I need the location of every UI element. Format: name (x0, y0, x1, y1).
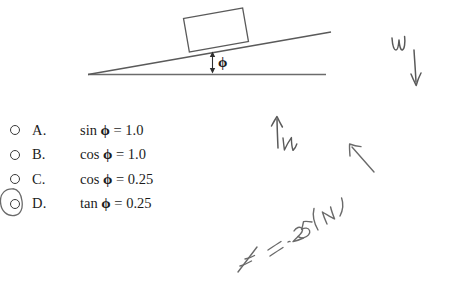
option-text-b: cos ϕ = 1.0 (80, 146, 146, 163)
answer-options-list: A. sin ϕ = 1.0 B. cos ϕ = 1.0 C. cos ϕ =… (8, 118, 238, 216)
handwritten-normal-arrow (272, 117, 283, 149)
option-text-b-suffix: = 1.0 (112, 146, 146, 162)
option-letter-c: C. (32, 171, 66, 188)
option-text-c-prefix: cos (80, 171, 103, 187)
option-text-d-suffix: = 0.25 (111, 195, 152, 211)
option-bubble-c[interactable] (10, 174, 20, 184)
option-text-c: cos ϕ = 0.25 (80, 171, 153, 188)
option-phi-d: ϕ (101, 195, 110, 211)
angle-label: ϕ (218, 54, 227, 70)
inclined-plane-diagram: ϕ (0, 0, 457, 100)
option-text-c-suffix: = 0.25 (112, 171, 153, 187)
option-bubble-b[interactable] (10, 150, 20, 160)
option-text-a-suffix: = 1.0 (110, 122, 144, 138)
option-bubble-d[interactable] (10, 199, 20, 209)
option-letter-b: B. (32, 146, 66, 163)
option-phi-a: ϕ (101, 122, 110, 138)
option-row-b[interactable]: B. cos ϕ = 1.0 (8, 143, 238, 168)
option-phi-c: ϕ (103, 171, 112, 187)
option-text-b-prefix: cos (80, 146, 103, 162)
handwritten-normal-label (283, 138, 297, 151)
option-text-a-prefix: sin (80, 122, 101, 138)
option-letter-d: D. (32, 195, 66, 212)
handwritten-equation (238, 198, 343, 272)
option-letter-a: A. (32, 122, 66, 139)
block-shape (184, 8, 249, 52)
option-text-d-prefix: tan (80, 195, 101, 211)
worksheet-page: ϕ A. sin ϕ = 1.0 B. cos ϕ = 1.0 C. cos ϕ… (0, 0, 457, 283)
option-text-a: sin ϕ = 1.0 (80, 122, 143, 139)
option-bubble-a[interactable] (10, 125, 20, 135)
option-row-a[interactable]: A. sin ϕ = 1.0 (8, 118, 238, 143)
angle-measure-arrow (210, 52, 215, 74)
option-row-c[interactable]: C. cos ϕ = 0.25 (8, 167, 238, 192)
option-phi-b: ϕ (103, 146, 112, 162)
handwritten-diagonal-arrow (350, 144, 374, 172)
option-row-d[interactable]: D. tan ϕ = 0.25 (8, 192, 238, 217)
option-text-d: tan ϕ = 0.25 (80, 195, 152, 212)
